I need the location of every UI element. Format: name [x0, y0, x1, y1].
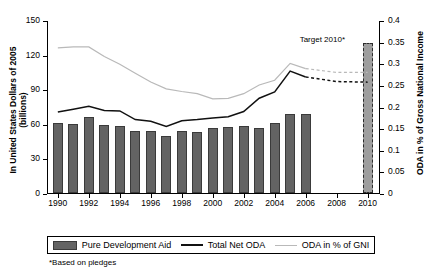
y-axis-right-tick — [380, 151, 384, 152]
y-axis-right-tick-label: 0.4 — [388, 16, 416, 25]
projection-total-net-oda — [306, 77, 368, 82]
line-series-layer — [47, 21, 380, 194]
y-axis-right-tick — [380, 108, 384, 109]
y-axis-left-tick — [43, 194, 47, 195]
y-axis-right-title: ODA in % of Gross National Income — [415, 13, 425, 193]
y-axis-left-tick-label: 0 — [16, 189, 40, 198]
projection-oda-in-of-gni — [306, 69, 368, 73]
y-axis-right-tick-label: 0.05 — [388, 167, 416, 176]
legend-label: Pure Development Aid — [82, 240, 172, 250]
y-axis-right-tick-label: 0.2 — [388, 103, 416, 112]
y-axis-right-tick-label: 0.35 — [388, 38, 416, 47]
y-axis-left-tick-label: 150 — [16, 16, 40, 25]
y-axis-right-tick-label: 0.1 — [388, 146, 416, 155]
legend-item-oda-percent-gni: ODA in % of GNI — [275, 240, 370, 250]
y-axis-right-tick-label: 0.15 — [388, 124, 416, 133]
y-axis-left-tick-label: 60 — [16, 120, 40, 129]
y-axis-right-tick — [380, 129, 384, 130]
y-axis-right-tick — [380, 194, 384, 195]
y-axis-right-tick — [380, 86, 384, 87]
y-axis-right-tick — [380, 43, 384, 44]
y-axis-left-tick-label: 120 — [16, 51, 40, 60]
legend-label: ODA in % of GNI — [302, 240, 370, 250]
y-axis-right-tick-label: 0.25 — [388, 81, 416, 90]
y-axis-right-tick — [380, 172, 384, 173]
line-swatch-icon — [275, 245, 297, 246]
legend-item-pure-development-aid: Pure Development Aid — [53, 240, 172, 250]
legend-item-total-net-oda: Total Net ODA — [181, 240, 266, 250]
chart-figure: In United States Dollars of 2005 (billio… — [0, 0, 427, 278]
y-axis-right-tick — [380, 21, 384, 22]
bar-swatch-icon — [53, 241, 77, 250]
chart-footnote: *Based on pledges — [49, 258, 116, 267]
line-total-net-oda — [58, 71, 306, 126]
x-axis-tick-label: 2010 — [348, 199, 388, 208]
y-axis-right-tick-label: 0 — [388, 189, 416, 198]
y-axis-right-tick — [380, 64, 384, 65]
y-axis-left-tick-label: 30 — [16, 154, 40, 163]
y-axis-right-tick-label: 0.3 — [388, 59, 416, 68]
target-2010-annotation: Target 2010* — [300, 35, 345, 44]
legend-label: Total Net ODA — [208, 240, 266, 250]
plot-area: 0306090120150 00.050.10.150.20.250.30.35… — [47, 21, 380, 194]
line-oda-in-of-gni — [58, 47, 306, 99]
line-swatch-icon — [181, 244, 203, 246]
y-axis-left-tick-label: 90 — [16, 85, 40, 94]
chart-legend: Pure Development Aid Total Net ODA ODA i… — [47, 236, 375, 254]
